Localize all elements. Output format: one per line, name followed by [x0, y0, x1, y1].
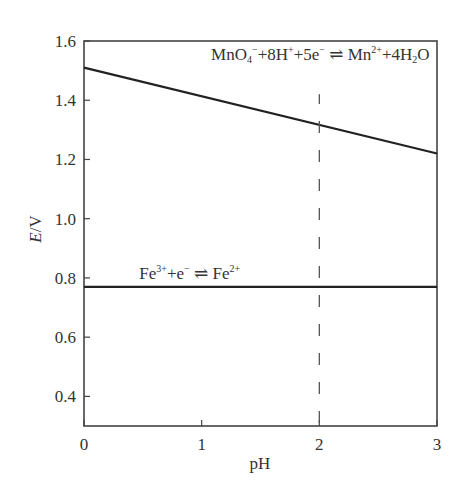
fe-reaction-label: Fe3+​+e−​ ⇌ Fe2+​ [139, 263, 240, 283]
y-tick-label: 1.0 [55, 210, 76, 229]
data-series [84, 68, 437, 423]
y-tick-label: 1.4 [55, 91, 77, 110]
mno4-reaction-label: MnO4​−​+8H+​+5e−​ ⇌ Mn2+​+4H2​O [211, 44, 430, 65]
plot-border [84, 41, 437, 426]
x-axis-label: pH [250, 454, 271, 473]
y-tick-label: 0.6 [55, 328, 76, 347]
y-axis-label-symbol: E [26, 232, 45, 244]
y-tick-label: 1.6 [55, 32, 76, 51]
plot-frame [84, 41, 437, 426]
y-tick-label: 0.8 [55, 269, 76, 288]
y-tick-label: 1.2 [55, 150, 76, 169]
x-tick-label: 3 [433, 435, 442, 454]
y-axis-label: E/V [26, 215, 45, 244]
reaction-annotations: MnO4​−​+8H+​+5e−​ ⇌ Mn2+​+4H2​OFe3+​+e−​… [139, 44, 429, 283]
x-tick-label: 1 [197, 435, 206, 454]
mno4-line [84, 68, 437, 154]
x-tick-label: 2 [315, 435, 324, 454]
x-axis-ticks: 0123 [80, 420, 442, 454]
potential-ph-chart: 0.40.60.81.01.21.41.6 0123 MnO4​−​+8H+​+… [0, 0, 468, 498]
y-axis-label-unit: /V [26, 215, 45, 233]
y-tick-label: 0.4 [55, 387, 77, 406]
x-tick-label: 0 [80, 435, 89, 454]
